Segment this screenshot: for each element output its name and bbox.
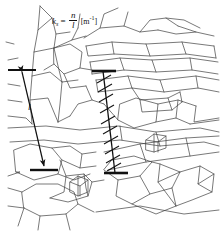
- units-close: ]: [95, 17, 98, 26]
- formula-equals: =: [61, 16, 66, 26]
- formula-subscript: s: [56, 21, 58, 27]
- formula-units: [m-1]: [81, 17, 98, 26]
- formula-fraction: n l: [69, 11, 78, 31]
- units-open: [m: [81, 17, 90, 26]
- length-label: l: [28, 102, 31, 112]
- rock-mass-figure: ks = n l [m-1] l: [0, 0, 220, 234]
- formula-denominator: l: [69, 21, 78, 30]
- scanline-group: [0, 0, 220, 234]
- scanline-frequency-formula: ks = n l [m-1]: [52, 11, 97, 31]
- formula-numerator: n: [69, 11, 78, 20]
